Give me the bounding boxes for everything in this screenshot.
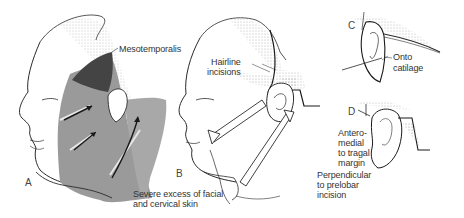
label-perp-line3: incision — [317, 190, 346, 200]
label-antero-line3: to tragal — [338, 148, 370, 158]
label-perp-line1: Perpendicular — [317, 170, 371, 180]
label-antero-line2: medial — [338, 138, 364, 148]
label-severe-line1: Severe excess of facial — [133, 189, 223, 199]
panel-c-drawing — [342, 12, 440, 82]
label-antero-line4: margin — [338, 158, 365, 168]
panel-letter-d: D — [348, 106, 355, 117]
label-hairline-line2: incisions — [207, 67, 241, 77]
label-hairline-line1: Hairline — [211, 57, 241, 67]
label-antero-line1: Antero- — [338, 128, 367, 138]
label-perp-line2: to prelobar — [317, 180, 359, 190]
illustration-drawing — [0, 0, 464, 218]
label-severe-line2: and cervical skin — [133, 199, 198, 209]
panel-letter-c: C — [348, 20, 355, 31]
label-mesotemporalis: Mesotemporalis — [119, 44, 181, 54]
label-onto-line1: Onto — [393, 52, 412, 62]
label-onto-line2: catilage — [393, 63, 423, 73]
panel-letter-a: A — [25, 177, 32, 188]
panel-b-drawing — [179, 18, 320, 204]
panel-letter-b: B — [176, 168, 183, 179]
facelift-illustration: A B C D Mesotemporalis Hairline incision… — [0, 0, 464, 218]
